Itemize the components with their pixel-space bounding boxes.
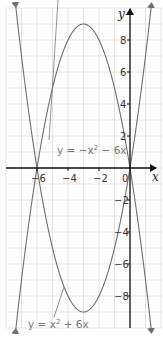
y-tick-label: −8 <box>114 291 129 302</box>
x-axis-label: x <box>152 170 159 184</box>
y-axis-label: y <box>117 7 125 21</box>
y-tick-label: −4 <box>114 227 129 238</box>
y-tick-label: 4 <box>120 99 126 110</box>
eq-bottom-prefix: y = x <box>28 318 56 330</box>
eq-label-top: y = −x2 − 6x <box>57 144 127 156</box>
y-tick-label: 6 <box>120 67 126 78</box>
eq-top-suffix: − 6x <box>98 144 126 156</box>
eq-bottom-pointer <box>54 287 64 317</box>
parabola-graph: −6−4−208642−2−4−6−8 x y y = −x2 − 6x y =… <box>0 0 163 338</box>
y-tick-label: 8 <box>120 35 126 46</box>
x-tick-label: −4 <box>62 173 77 184</box>
y-tick-label: 2 <box>120 131 126 142</box>
x-tick-label: −2 <box>93 173 108 184</box>
eq-top-prefix: y = −x <box>57 144 94 156</box>
y-tick-label: −2 <box>114 195 129 206</box>
y-tick-label: −6 <box>114 259 129 270</box>
x-tick-label: 0 <box>122 173 128 184</box>
x-tick-label: −6 <box>31 173 46 184</box>
eq-bottom-suffix: + 6x <box>60 318 88 330</box>
